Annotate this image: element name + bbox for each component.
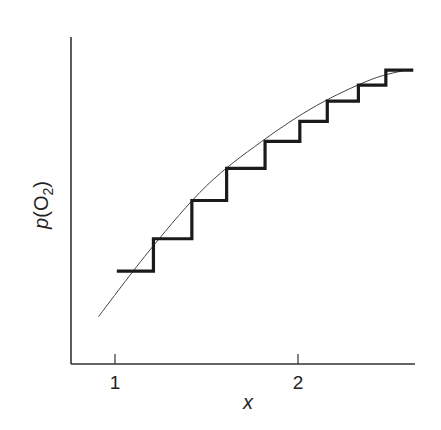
chart: 12 x p(O2) (0, 0, 441, 430)
x-ticks: 12 (110, 354, 304, 393)
x-tick-label: 2 (293, 372, 304, 393)
y-axis-label: p(O2) (30, 181, 56, 230)
continuous-curve (99, 70, 408, 317)
x-axis-label: x (242, 391, 254, 413)
stepwise-approximation (117, 70, 413, 271)
x-tick-label: 1 (110, 372, 121, 393)
